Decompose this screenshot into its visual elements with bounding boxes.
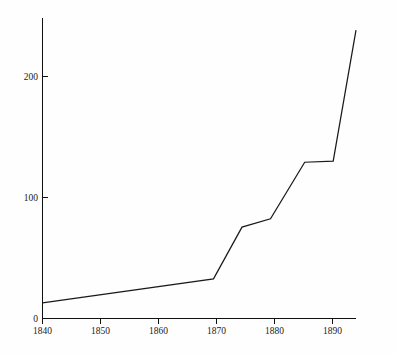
x-tick-label-1880: 1880 xyxy=(265,326,284,336)
x-tick-label-1860: 1860 xyxy=(149,326,168,336)
x-tick-label-1890: 1890 xyxy=(323,326,342,336)
x-tick-label-1840: 1840 xyxy=(33,326,52,336)
y-tick-label-100: 100 xyxy=(24,193,39,203)
y-tick-label-0: 0 xyxy=(33,314,38,324)
chart-canvas: 0 100 200 1840 1850 1860 1870 1880 1890 xyxy=(0,0,397,354)
x-tick-label-1850: 1850 xyxy=(91,326,110,336)
line-chart: 0 100 200 1840 1850 1860 1870 1880 1890 xyxy=(0,0,397,354)
y-tick-label-200: 200 xyxy=(24,72,39,82)
x-tick-label-1870: 1870 xyxy=(207,326,226,336)
